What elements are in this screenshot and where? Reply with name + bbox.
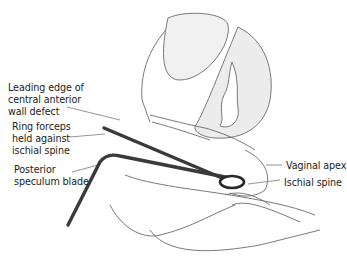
ring-forceps-ring [220, 176, 244, 188]
vaginal-apex-outline [230, 150, 268, 196]
ischial-spine-structure [225, 193, 300, 222]
label-vaginal-apex: Vaginal apex [286, 160, 346, 172]
bladder [164, 13, 229, 80]
label-ischial-spine: Ischial spine [284, 177, 342, 189]
label-ring-forceps: Ring forceps held against ischial spine [12, 121, 71, 157]
rectum [110, 205, 235, 236]
leader-ring-forceps [70, 134, 105, 137]
pelvic-floor [150, 230, 320, 251]
label-posterior-speculum: Posterior speculum blade [14, 164, 89, 188]
leader-ischial-spine [248, 180, 280, 184]
label-leading-edge: Leading edge of central anterior wall de… [8, 82, 84, 118]
